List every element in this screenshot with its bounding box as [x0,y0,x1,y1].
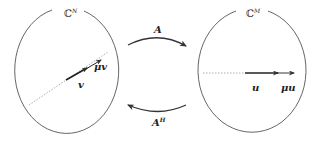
right-space-CM: ℂM u μu [198,7,306,132]
vector-mu-v-label: μv [94,61,107,72]
adjoint-map-label: AH [151,116,166,128]
adjoint-map-AH: AH [128,105,186,128]
right-space-boundary [198,11,306,132]
linear-map-diagram: ℂN v μv ℂM u μu A [0,0,315,143]
left-space-CN: ℂN v μv [15,7,119,133]
vector-mu-u-label: μu [281,82,296,93]
forward-map-A: A [128,24,186,46]
forward-map-arrow [128,38,186,46]
left-space-label: ℂN [64,7,78,19]
forward-map-label: A [153,24,162,35]
right-space-label: ℂM [246,7,261,19]
vector-v-label: v [78,79,84,90]
vector-u-label: u [252,82,259,93]
vector-v-arrow [66,68,87,80]
adjoint-map-arrow [128,105,186,112]
